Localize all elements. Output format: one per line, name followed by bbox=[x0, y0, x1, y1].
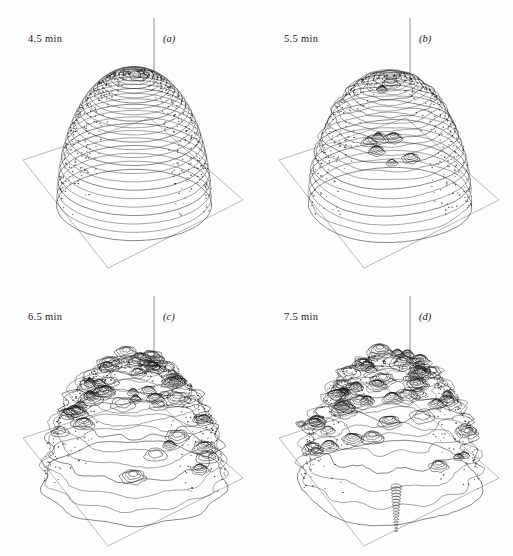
contour-ring bbox=[57, 153, 211, 224]
panel-letter: (b) bbox=[419, 33, 431, 44]
cell-contour bbox=[120, 347, 134, 355]
panel-letter: (d) bbox=[419, 311, 431, 322]
cell-contour bbox=[125, 471, 140, 480]
cell-contour bbox=[170, 393, 186, 402]
contour-ring bbox=[313, 128, 468, 199]
contour-ring bbox=[73, 94, 196, 150]
panel-c: 6.5 min(c) bbox=[0, 278, 256, 556]
cell-contour bbox=[346, 434, 360, 442]
cell-contour bbox=[172, 431, 183, 437]
cell-contour bbox=[198, 442, 210, 449]
contour-surface bbox=[308, 70, 472, 243]
time-label: 7.5 min bbox=[284, 311, 318, 322]
cell-contour bbox=[54, 428, 65, 435]
panel-b: 5.5 min(b) bbox=[256, 0, 512, 278]
contour-surface bbox=[57, 67, 212, 241]
figure-canvas: 4.5 min(a)5.5 min(b)6.5 min(c)7.5 min(d) bbox=[0, 0, 513, 556]
contour-ring bbox=[295, 422, 485, 509]
cell-contour bbox=[104, 378, 116, 384]
cell-contour bbox=[342, 433, 364, 446]
contour-ring bbox=[58, 146, 211, 216]
contour-ring bbox=[297, 440, 483, 526]
contour-ring bbox=[325, 96, 456, 156]
contour-ring bbox=[76, 89, 193, 143]
contour-surface bbox=[295, 344, 485, 532]
panel-a: 4.5 min(a) bbox=[0, 0, 256, 278]
cell-contour bbox=[368, 433, 376, 438]
cell-contour bbox=[378, 374, 387, 379]
contour-ring bbox=[61, 124, 206, 191]
contour-ring bbox=[314, 120, 466, 190]
panel-letter: (a) bbox=[163, 33, 175, 44]
time-label: 4.5 min bbox=[28, 33, 62, 44]
cell-contour bbox=[435, 461, 442, 465]
panel-letter: (c) bbox=[163, 311, 175, 322]
time-label: 5.5 min bbox=[284, 33, 318, 44]
panel-d: 7.5 min(d) bbox=[256, 278, 512, 556]
cell-contour bbox=[148, 450, 163, 458]
limb-stipple bbox=[311, 73, 471, 215]
contour-ring bbox=[310, 134, 469, 207]
cell-contour bbox=[81, 381, 99, 391]
time-label: 6.5 min bbox=[28, 311, 62, 322]
contour-ring bbox=[353, 72, 427, 106]
cell-contour bbox=[388, 159, 396, 164]
cell-contour bbox=[119, 470, 147, 485]
cell-contour bbox=[380, 416, 400, 427]
satellite-blob bbox=[296, 421, 307, 428]
contour-ring bbox=[310, 142, 471, 216]
contour-ring bbox=[308, 159, 472, 234]
apex-cells bbox=[51, 346, 219, 485]
cell-contour bbox=[323, 427, 334, 433]
contour-ring bbox=[40, 441, 228, 527]
